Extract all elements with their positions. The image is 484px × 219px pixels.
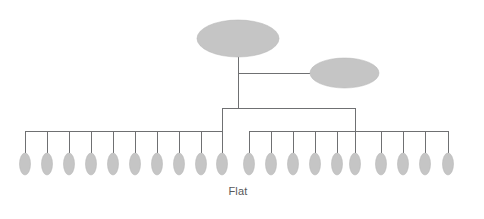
leaf-node: [86, 153, 97, 175]
flat-org-chart-figure: Flat © Cengage Learning: [0, 0, 484, 219]
leaf-node: [376, 153, 387, 175]
leaf-node: [443, 153, 454, 175]
staff-node: [310, 58, 379, 88]
node-layer: [20, 20, 454, 175]
leaf-node: [332, 153, 343, 175]
leaf-node: [217, 153, 228, 175]
leaf-node: [196, 153, 207, 175]
leaf-node: [266, 153, 277, 175]
leaf-node: [152, 153, 163, 175]
leaf-node: [288, 153, 299, 175]
leaf-node: [64, 153, 75, 175]
leaf-node: [244, 153, 255, 175]
leaf-node: [420, 153, 431, 175]
leaf-node: [20, 153, 31, 175]
leaf-node: [350, 153, 361, 175]
leaf-node: [130, 153, 141, 175]
executive-node: [197, 20, 279, 57]
leaf-node: [174, 153, 185, 175]
leaf-node: [108, 153, 119, 175]
diagram-caption: Flat: [0, 185, 476, 197]
leaf-node: [42, 153, 53, 175]
leaf-node: [398, 153, 409, 175]
connector-layer: [25, 57, 448, 153]
leaf-node: [310, 153, 321, 175]
